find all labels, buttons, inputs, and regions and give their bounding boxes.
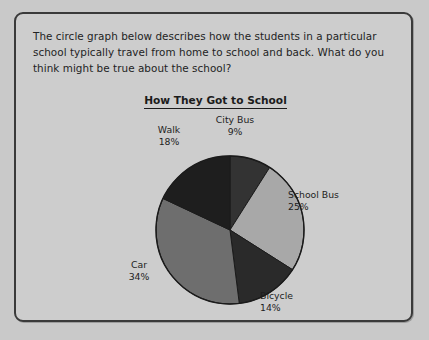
- pie-label-bicycle-name: Bicycle: [260, 290, 293, 301]
- pie-label-walk-percent: 18%: [138, 136, 200, 148]
- pie-label-school-bus-name: School Bus: [288, 189, 339, 200]
- pie-label-car-name: Car: [131, 259, 147, 270]
- pie-label-city-bus: City Bus 9%: [200, 114, 270, 137]
- pie-label-bicycle: Bicycle 14%: [260, 290, 330, 313]
- pie-label-city-bus-name: City Bus: [216, 114, 254, 125]
- pie-label-car-percent: 34%: [110, 271, 168, 283]
- pie-label-bicycle-percent: 14%: [260, 302, 330, 314]
- pie-label-walk: Walk 18%: [138, 124, 200, 147]
- worksheet-card: The circle graph below describes how the…: [14, 12, 413, 322]
- pie-label-school-bus: School Bus 25%: [288, 189, 366, 212]
- pie-chart-labels: Walk 18% City Bus 9% School Bus 25% Bicy…: [16, 14, 415, 324]
- pie-label-school-bus-percent: 25%: [288, 201, 366, 213]
- pie-label-walk-name: Walk: [158, 124, 180, 135]
- pie-label-car: Car 34%: [110, 259, 168, 282]
- pie-label-city-bus-percent: 9%: [200, 126, 270, 138]
